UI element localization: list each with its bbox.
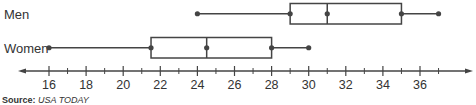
tick-label: 16 — [42, 78, 56, 92]
tick-label: 22 — [153, 78, 167, 92]
tick-label: 18 — [79, 78, 93, 92]
data-point — [148, 45, 153, 50]
iqr-box — [290, 4, 401, 25]
women-row-label: Women — [4, 41, 49, 56]
tick-label: 24 — [190, 78, 204, 92]
source-name: USA TODAY — [38, 95, 89, 105]
women-box-plot — [46, 38, 311, 59]
men-row-label: Men — [4, 7, 29, 22]
source-note: Source: USA TODAY — [2, 95, 89, 105]
data-point — [399, 11, 404, 16]
men-box-plot — [195, 4, 441, 25]
data-point — [269, 45, 274, 50]
source-prefix: Source: — [2, 95, 36, 105]
iqr-box — [151, 38, 272, 59]
right-arrow-icon — [465, 69, 473, 74]
data-point — [204, 45, 209, 50]
data-point — [306, 45, 311, 50]
data-point — [436, 11, 441, 16]
tick-label: 28 — [265, 78, 279, 92]
data-point — [288, 11, 293, 16]
data-point — [325, 11, 330, 16]
left-arrow-icon — [18, 69, 26, 74]
number-line-axis: 1618202224262830323436 — [18, 66, 473, 92]
data-point — [195, 11, 200, 16]
tick-label: 32 — [339, 78, 353, 92]
tick-label: 26 — [228, 78, 242, 92]
tick-label: 34 — [376, 78, 390, 92]
tick-label: 36 — [413, 78, 427, 92]
tick-label: 30 — [302, 78, 316, 92]
tick-label: 20 — [116, 78, 130, 92]
data-point — [46, 45, 51, 50]
box-plot-chart: Men Women 1618202224262830323436 — [0, 0, 476, 95]
